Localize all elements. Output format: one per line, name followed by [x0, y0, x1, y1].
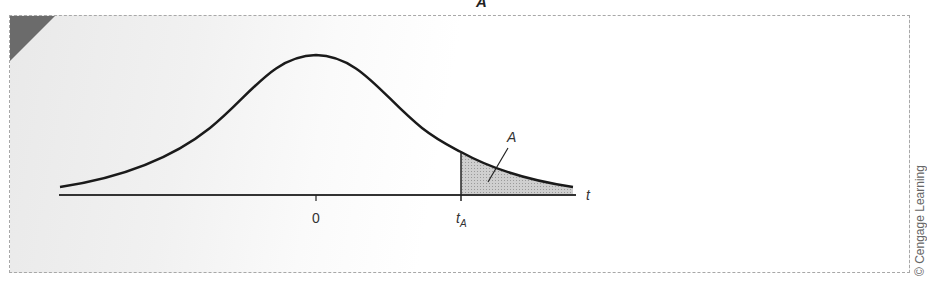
t-distribution-plot: 0 tA t A: [0, 0, 927, 281]
corner-marker: [10, 16, 55, 61]
cutoff-label-sub: A: [459, 218, 467, 229]
copyright-credit: © Cengage Learning: [913, 165, 927, 276]
shaded-tail-area: [461, 152, 573, 195]
zero-label: 0: [312, 210, 320, 226]
cutoff-label: tA: [456, 210, 467, 229]
area-label: A: [506, 129, 516, 145]
axis-label-t: t: [586, 187, 591, 203]
